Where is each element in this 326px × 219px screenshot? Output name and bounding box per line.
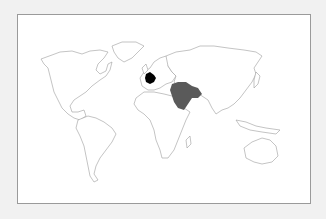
australia	[244, 138, 278, 164]
north-america	[41, 50, 112, 120]
greenland	[112, 42, 144, 62]
madagascar	[186, 136, 191, 148]
indonesia	[236, 120, 280, 134]
world-map	[0, 0, 326, 219]
south-america	[76, 116, 116, 182]
